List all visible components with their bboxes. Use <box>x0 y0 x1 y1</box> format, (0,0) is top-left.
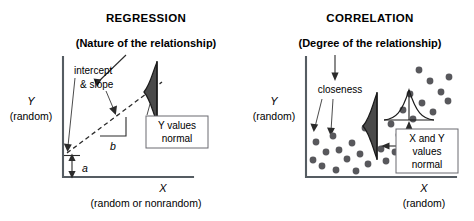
correlation-callout-box: X and Y values normal <box>396 129 458 173</box>
correlation-y-axis-label: Y <box>270 95 278 107</box>
intercept-slope-label-line2: & slope <box>80 79 114 90</box>
scatter-point <box>410 116 417 123</box>
scatter-point <box>365 161 372 168</box>
scatter-point <box>438 89 445 96</box>
correlation-x-axis-sublabel: (random) <box>403 197 446 209</box>
scatter-point <box>349 140 356 147</box>
scatter-point <box>310 157 317 164</box>
correlation-subtitle: (Degree of the relationship) <box>298 37 441 49</box>
correlation-x-axis-label: X <box>419 182 428 194</box>
figure-canvas: REGRESSION (Nature of the relationship) … <box>0 0 474 221</box>
statistics-diagram: REGRESSION (Nature of the relationship) … <box>0 0 474 221</box>
regression-subtitle: (Nature of the relationship) <box>76 37 217 49</box>
svg-text:X and Y: X and Y <box>409 133 445 144</box>
regression-x-axis-label: X <box>158 182 167 194</box>
scatter-point <box>445 98 452 105</box>
scatter-point <box>333 167 340 174</box>
regression-x-axis-sublabel: (random or nonrandom) <box>91 197 202 209</box>
svg-text:normal: normal <box>162 133 193 144</box>
scatter-point <box>319 163 326 170</box>
scatter-point <box>388 121 395 128</box>
scatter-point <box>323 149 330 156</box>
correlation-title: CORRELATION <box>326 12 413 24</box>
regression-callout-box: Y values normal <box>146 116 208 148</box>
intercept-symbol-a: a <box>82 162 88 174</box>
scatter-point <box>446 74 453 81</box>
scatter-point <box>416 67 423 74</box>
scatter-point <box>430 109 437 116</box>
closeness-label: closeness <box>318 84 362 95</box>
scatter-point <box>330 133 337 140</box>
svg-text:normal: normal <box>412 159 443 170</box>
scatter-point <box>419 100 426 107</box>
scatter-point <box>357 151 364 158</box>
scatter-point <box>344 156 351 163</box>
scatter-point <box>383 158 390 165</box>
intercept-slope-label-line1: intercept <box>74 65 113 76</box>
regression-y-axis-sublabel: (random) <box>10 110 53 122</box>
svg-text:Y values: Y values <box>158 120 196 131</box>
scatter-point <box>313 139 320 146</box>
scatter-point <box>427 78 434 85</box>
scatter-point <box>336 147 343 154</box>
slope-symbol-b: b <box>110 140 116 152</box>
correlation-callout-line3: normal <box>412 159 443 170</box>
regression-callout-line1: Y values <box>158 120 196 131</box>
regression-y-axis-label: Y <box>27 95 35 107</box>
correlation-callout-line1: X and Y <box>409 133 445 144</box>
regression-title: REGRESSION <box>106 12 186 24</box>
correlation-callout-line2: values <box>413 146 442 157</box>
correlation-y-axis-sublabel: (random) <box>253 110 296 122</box>
regression-callout-line2: normal <box>162 133 193 144</box>
svg-text:values: values <box>413 146 442 157</box>
scatter-point <box>353 168 360 175</box>
